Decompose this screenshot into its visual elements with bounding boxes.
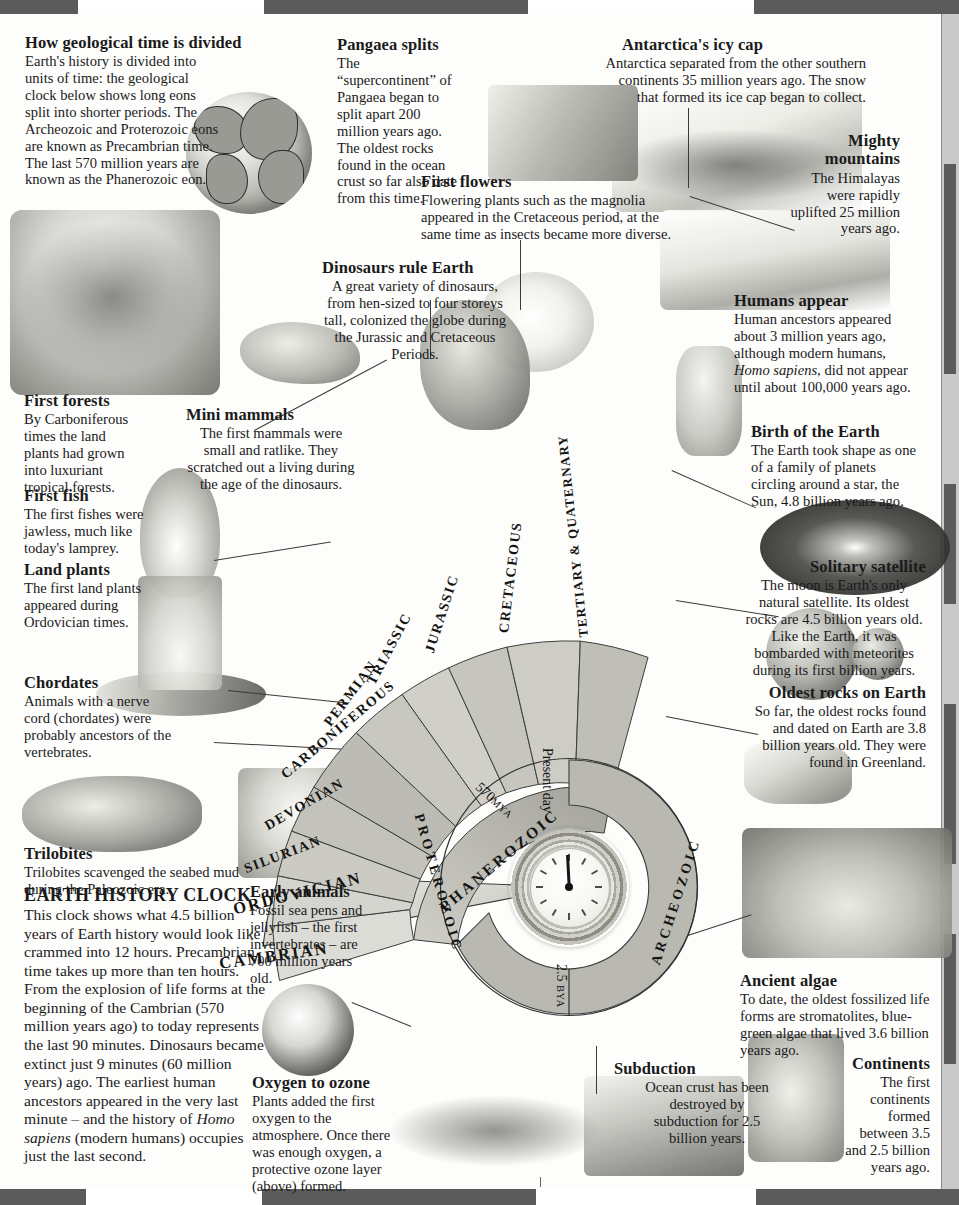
block-subduction: Subduction Ocean crust has been destroye… [614, 1060, 774, 1147]
heading: Oxygen to ozone [252, 1074, 400, 1092]
heading: Trilobites [24, 845, 258, 863]
body: The first fishes were jawless, much like… [24, 506, 148, 557]
body: Antarctica separated from the other sout… [598, 55, 866, 106]
body: Trilobites scavenged the seabed mud duri… [24, 864, 258, 898]
heading: How geological time is divided [25, 34, 325, 52]
heading: Mighty mountains [790, 132, 900, 169]
analog-clock [509, 827, 629, 947]
heading: Subduction [614, 1060, 774, 1078]
block-how-time-divided: How geological time is divided Earth's h… [25, 34, 325, 188]
body: Earth's history is divided into units of… [25, 53, 219, 188]
body: By Carboniferous times the land plants h… [24, 411, 140, 495]
block-trilobites: Trilobites Trilobites scavenged the seab… [24, 845, 258, 898]
heading: Birth of the Earth [751, 423, 921, 441]
body: Plants added the first oxygen to the atm… [252, 1093, 400, 1194]
block-land-plants: Land plants The first land plants appear… [24, 561, 160, 631]
block-earth-history-clock: EARTH HISTORY CLOCK This clock shows wha… [24, 885, 266, 1166]
body: The first land plants appeared during Or… [24, 580, 160, 631]
block-chordates: Chordates Animals with a nerve cord (cho… [24, 674, 176, 761]
trilobite-illustration [22, 776, 202, 852]
block-solitary-satellite: Solitary satellite The moon is Earth's o… [742, 558, 926, 679]
axis-label-present-day: Present day [540, 748, 554, 813]
page-frame-top [0, 0, 959, 14]
block-first-fish: First fish The first fishes were jawless… [24, 487, 148, 557]
heading: Oldest rocks on Earth [742, 684, 926, 702]
body: Animals with a nerve cord (chordates) we… [24, 693, 176, 760]
block-dinosaurs-rule: Dinosaurs rule Earth A great variety of … [322, 259, 508, 363]
block-antarctica: Antarctica's icy cap Antarctica separate… [598, 36, 866, 106]
clouds-illustration [390, 1096, 600, 1166]
block-mighty-mountains: Mighty mountains The Himalayas were rapi… [790, 132, 900, 237]
heading: Continents [838, 1055, 930, 1073]
heading: First flowers [421, 173, 673, 191]
heading: Solitary satellite [742, 558, 926, 576]
stromatolites-illustration [742, 828, 952, 958]
body: Fossil sea pens and jellyfish – the firs… [250, 902, 368, 986]
block-mini-mammals: Mini mammals The first mammals were smal… [186, 406, 356, 493]
infographic-page: CAMBRIAN ORDOVICIAN SILURIAN DEVONIAN CA… [0, 0, 959, 1205]
heading: Land plants [24, 561, 160, 579]
block-oxygen-to-ozone: Oxygen to ozone Plants added the first o… [252, 1074, 400, 1195]
page-frame-right [941, 14, 959, 1189]
block-early-animals: Early animals Fossil sea pens and jellyf… [250, 883, 368, 987]
body: The moon is Earth's only natural satelli… [742, 577, 926, 678]
clock-tick [568, 913, 570, 920]
clock-tick [536, 886, 543, 888]
clock-tick [595, 886, 602, 888]
heading: Pangaea splits [337, 36, 457, 54]
body-part-1: Human ancestors appeared about 3 million… [734, 311, 891, 361]
body: This clock shows what 4.5 billion years … [24, 906, 266, 1166]
heading: Mini mammals [186, 406, 356, 424]
body: A great variety of dinosaurs, from hen-s… [322, 278, 508, 362]
clock-center-pin [565, 883, 573, 891]
heading: First forests [24, 392, 140, 410]
body: To date, the oldest fossilized life form… [740, 991, 930, 1058]
body: The Himalayas were rapidly uplifted 25 m… [790, 170, 900, 237]
body: Ocean crust has been destroyed by subduc… [640, 1079, 774, 1146]
heading: Early animals [250, 883, 368, 901]
axis-label-2-5-bya: 2.5 BYA [554, 964, 568, 1008]
body: Human ancestors appeared about 3 million… [734, 311, 914, 395]
block-first-forests: First forests By Carboniferous times the… [24, 392, 140, 496]
block-birth-of-earth: Birth of the Earth The Earth took shape … [751, 423, 921, 510]
block-humans-appear: Humans appear Human ancestors appeared a… [734, 292, 914, 396]
block-oldest-rocks: Oldest rocks on Earth So far, the oldest… [742, 684, 926, 771]
block-continents: Continents The first continents formed b… [838, 1055, 930, 1176]
block-ancient-algae: Ancient algae To date, the oldest fossil… [740, 972, 930, 1059]
heading: Chordates [24, 674, 176, 692]
body-species-name: Homo sapiens [734, 362, 817, 378]
body: The first mammals were small and ratlike… [186, 425, 356, 492]
body: So far, the oldest rocks found and dated… [742, 703, 926, 770]
heading: Dinosaurs rule Earth [322, 259, 508, 277]
heading: Humans appear [734, 292, 914, 310]
body: The Earth took shape as one of a family … [751, 442, 921, 509]
page-frame-tick [540, 1177, 541, 1187]
page-frame-bottom [0, 1189, 959, 1205]
heading: Antarctica's icy cap [622, 36, 866, 54]
heading: Ancient algae [740, 972, 930, 990]
forest-illustration [10, 210, 220, 395]
body: The first continents formed between 3.5 … [838, 1074, 930, 1175]
body: Flowering plants such as the magnolia ap… [421, 192, 673, 243]
block-first-flowers: First flowers Flowering plants such as t… [421, 173, 673, 243]
body-part-1: This clock shows what 4.5 billion years … [24, 906, 265, 1127]
